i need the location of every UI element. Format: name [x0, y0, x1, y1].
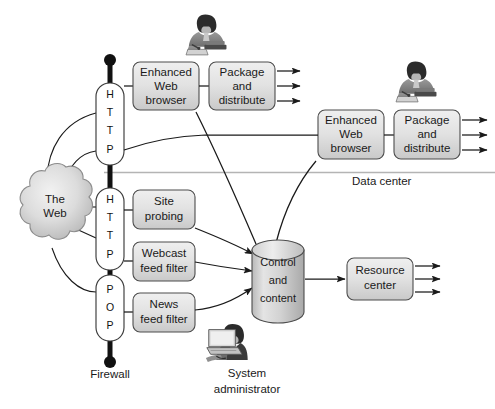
- person-at-desk-icon: [186, 14, 226, 54]
- outputs-package-top: [277, 71, 300, 101]
- node-site-probing[interactable]: Site probing: [124, 190, 195, 229]
- person-at-computer-icon: [206, 324, 248, 362]
- port-letter: T: [107, 229, 114, 241]
- box-label-line: probing: [145, 210, 183, 222]
- port-letter: T: [107, 211, 114, 223]
- cloud-label-line1: The: [45, 193, 65, 205]
- system-administrator-label-line1: System: [228, 367, 266, 379]
- box-label-line: Web: [339, 128, 362, 140]
- box-label-line: Package: [220, 66, 265, 78]
- connector-http-top-to-dc-browser: [124, 135, 318, 150]
- port-letter: T: [107, 124, 114, 136]
- box-label-line: browser: [146, 94, 187, 106]
- box-label-line: feed filter: [140, 262, 187, 274]
- firewall-cap-bottom: [104, 356, 116, 368]
- node-package-and-distribute-top[interactable]: Package and distribute: [199, 62, 275, 110]
- box-label-line: distribute: [404, 142, 451, 154]
- box-label-line: Resource: [355, 264, 404, 276]
- port-letter: P: [106, 143, 113, 155]
- port-letter: P: [106, 248, 113, 260]
- box-label-line: Site: [154, 195, 174, 207]
- box-label-line: browser: [331, 142, 372, 154]
- box-label-line: Web: [154, 80, 177, 92]
- system-administrator-label-line2: administrator: [214, 383, 281, 395]
- firewall: H T T P H T T P P O P Firewall: [90, 54, 130, 380]
- box-label-line: and: [417, 128, 436, 140]
- connector-site-probing-to-control: [195, 228, 253, 254]
- box-label-line: center: [364, 279, 396, 291]
- node-enhanced-web-browser-top[interactable]: Enhanced Web browser: [124, 62, 199, 110]
- port-letter: H: [106, 193, 114, 205]
- firewall-port-pop[interactable]: P O P: [96, 275, 124, 341]
- actor-analyst-top: [186, 14, 226, 54]
- box-label-line: News: [150, 298, 179, 310]
- node-webcast-feed-filter[interactable]: Webcast feed filter: [124, 242, 195, 281]
- port-letter: T: [107, 106, 114, 118]
- firewall-label: Firewall: [90, 368, 130, 380]
- box-label-line: distribute: [219, 94, 266, 106]
- firewall-port-http-top[interactable]: H T T P: [96, 83, 124, 165]
- box-label-line: Package: [405, 114, 450, 126]
- outputs-resource-center: [415, 266, 440, 292]
- connector-webcast-to-control: [195, 262, 252, 271]
- box-label-line: Enhanced: [325, 114, 377, 126]
- cloud-label-line2: Web: [43, 207, 66, 219]
- network-architecture-diagram: Data center H T T P H T T P: [0, 0, 495, 409]
- firewall-cap-top: [104, 54, 116, 66]
- connector-news-to-control: [195, 288, 252, 310]
- actor-analyst-datacenter: [396, 61, 436, 101]
- firewall-port-http-mid[interactable]: H T T P: [96, 188, 124, 270]
- box-label-line: Webcast: [142, 247, 187, 259]
- node-enhanced-web-browser-dc[interactable]: Enhanced Web browser: [318, 110, 384, 159]
- connector-web-to-pop: [52, 248, 96, 292]
- connector-browser-top-to-control: [196, 112, 256, 244]
- box-label-line: feed filter: [140, 313, 187, 325]
- cylinder-label-line: Control: [260, 256, 295, 268]
- port-letter: H: [106, 88, 114, 100]
- port-letter: P: [106, 283, 113, 295]
- actor-system-administrator: System administrator: [206, 324, 281, 395]
- box-label-line: and: [232, 80, 251, 92]
- node-package-and-distribute-dc[interactable]: Package and distribute: [384, 110, 460, 159]
- connector-browser-dc-to-control: [276, 161, 316, 243]
- outputs-package-dc: [462, 120, 487, 150]
- diagram-canvas: Data center H T T P H T T P: [0, 0, 495, 409]
- node-control-and-content[interactable]: Control and content: [252, 240, 304, 323]
- box-label-line: Enhanced: [140, 66, 192, 78]
- port-letter: P: [106, 319, 113, 331]
- node-news-feed-filter[interactable]: News feed filter: [124, 293, 195, 332]
- person-at-desk-icon: [396, 61, 436, 101]
- port-letter: O: [106, 301, 114, 313]
- cylinder-label-line: and: [269, 274, 287, 286]
- node-resource-center[interactable]: Resource center: [305, 258, 413, 300]
- cylinder-label-line: content: [260, 292, 296, 304]
- the-web-cloud[interactable]: The Web: [20, 164, 92, 240]
- data-center-label: Data center: [352, 175, 412, 187]
